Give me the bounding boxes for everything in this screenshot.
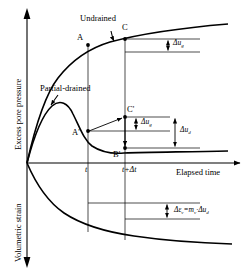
equation-dot-delta-u: ·Δu bbox=[196, 205, 206, 214]
annotation-delta-u-d: Δud bbox=[180, 126, 191, 134]
figure-container: Excess pore pressure Volumetric strain E… bbox=[0, 0, 252, 273]
annotation-delta-u-d-symbol: Δu bbox=[180, 125, 188, 134]
point-label-A: A bbox=[77, 33, 83, 42]
point-marker-C-prime bbox=[123, 115, 127, 119]
annotation-delta-u-g-lower-symbol: Δu bbox=[141, 117, 149, 126]
annotation-delta-epsilon-v-equation: Δεv=mv·Δud bbox=[174, 206, 209, 214]
annotation-delta-u-d-subscript: d bbox=[188, 130, 190, 135]
point-label-A-prime: A' bbox=[72, 128, 80, 137]
annotation-delta-u-g-upper: Δug bbox=[173, 39, 184, 47]
equation-equals-m: =m bbox=[184, 205, 194, 214]
annotation-delta-u-g-lower-subscript: g bbox=[149, 122, 151, 127]
point-marker-B-prime bbox=[123, 146, 127, 150]
point-label-B-prime: B' bbox=[113, 150, 120, 159]
annotation-delta-u-g-upper-subscript: g bbox=[181, 43, 183, 48]
y-axis-upper-label: Excess pore pressure bbox=[14, 79, 23, 150]
curve-label-undrained: Undrained bbox=[80, 14, 116, 23]
x-tick-label-t: t bbox=[85, 166, 87, 174]
x-tick-label-t-plus-dt: t+Δt bbox=[122, 166, 137, 174]
y-axis-down-arrow-icon bbox=[24, 257, 31, 268]
annotation-delta-u-g-lower: Δug bbox=[141, 118, 152, 126]
y-axis-lower-label: Volumetric strain bbox=[14, 203, 23, 262]
axis-group bbox=[24, 8, 240, 268]
point-marker-A bbox=[86, 43, 90, 47]
curve-label-partial-drained: Partial-drained bbox=[40, 84, 91, 93]
equation-delta-epsilon-subscript: v bbox=[181, 210, 183, 215]
undrained-curve bbox=[27, 24, 228, 163]
diagram-canvas bbox=[0, 0, 252, 273]
equation-m-subscript: v bbox=[194, 210, 196, 215]
point-label-C-prime: C' bbox=[127, 105, 134, 114]
callout-arrow-undrained bbox=[111, 31, 114, 41]
point-marker-C bbox=[123, 37, 127, 41]
point-marker-A-prime bbox=[86, 129, 90, 133]
generation-arrow-A-to-C bbox=[89, 118, 122, 131]
equation-delta-u-subscript: d bbox=[206, 210, 208, 215]
y-axis-up-arrow-icon bbox=[24, 8, 31, 19]
annotation-delta-u-g-upper-symbol: Δu bbox=[173, 38, 181, 47]
point-label-C: C bbox=[122, 23, 128, 32]
x-axis-label: Elapsed time bbox=[176, 168, 220, 177]
